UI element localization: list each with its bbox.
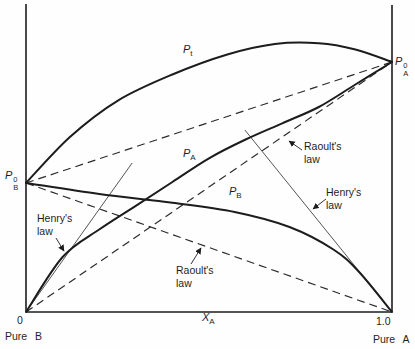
- henry-law-right-annotation: Henry's law: [326, 186, 361, 212]
- raoult-bottom-arrow: [191, 248, 201, 264]
- raoult-right-arrow: [289, 141, 302, 150]
- annotation-line: Henry's: [326, 186, 361, 199]
- x-tick-zero: 0: [17, 314, 23, 326]
- annotation-line: law: [304, 153, 342, 166]
- p0-a-label: P0A: [395, 55, 408, 77]
- annotation-line: law: [176, 277, 214, 290]
- henry-law-left-annotation: Henry's law: [37, 212, 72, 238]
- raoult-law-bottom-annotation: Raoult's law: [176, 264, 214, 290]
- x-tick-one: 1.0: [376, 315, 391, 327]
- plot-svg: [0, 0, 415, 349]
- partial-pressure-a-label: PA: [183, 147, 196, 162]
- partial-pressure-b-label: PB: [229, 185, 242, 200]
- x-axis-label: XA: [202, 311, 215, 326]
- annotation-line: law: [326, 199, 361, 212]
- vapor-pressure-diagram: Pt PA PB P0A P0B 0 XA 1.0 Pure B Pure A …: [0, 0, 415, 349]
- henry-right-arrow: [313, 199, 326, 209]
- henry-left-arrow: [56, 238, 64, 251]
- annotation-line: Raoult's: [176, 264, 214, 277]
- p0-b-label: P0B: [5, 169, 18, 191]
- annotation-line: Henry's: [37, 212, 72, 225]
- total-pressure-label: Pt: [183, 43, 193, 58]
- pure-a-caption: Pure A: [373, 333, 410, 345]
- annotation-line: law: [37, 225, 72, 238]
- annotation-line: Raoult's: [304, 140, 342, 153]
- pure-b-caption: Pure B: [5, 330, 42, 342]
- raoult-law-right-annotation: Raoult's law: [304, 140, 342, 166]
